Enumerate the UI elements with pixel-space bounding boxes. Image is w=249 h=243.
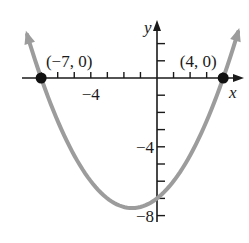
- curve-left-arrow-icon: [24, 31, 35, 45]
- curve-right-arrow-icon: [230, 28, 241, 42]
- intercept-point: [218, 73, 229, 84]
- y-tick-label: −4: [136, 138, 155, 157]
- intercept-point: [36, 73, 47, 84]
- y-tick-label: −8: [136, 207, 154, 226]
- x-axis-label: x: [228, 83, 237, 102]
- point-label: (4, 0): [180, 52, 217, 71]
- y-axis-label: y: [142, 18, 152, 37]
- x-tick-label: −4: [82, 85, 101, 104]
- x-axis-arrow-icon: [233, 74, 244, 82]
- curve-arrows: [24, 28, 240, 45]
- point-label: (−7, 0): [46, 52, 92, 71]
- axes: [22, 20, 244, 222]
- y-axis-arrow-icon: [153, 20, 161, 31]
- parabola-graph: x y −4−4−8(−7, 0)(4, 0): [0, 0, 249, 243]
